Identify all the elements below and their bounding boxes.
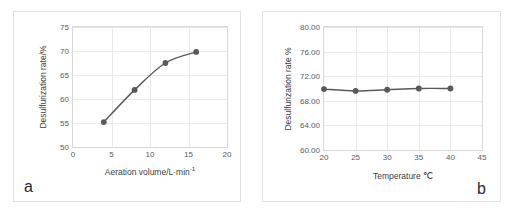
data-point-marker	[384, 87, 390, 93]
y-axis-tick-label: 75	[60, 23, 69, 32]
y-axis-tick-label: 80.00	[300, 23, 320, 32]
y-axis-title-a: Desulfurization rate/%	[38, 45, 48, 128]
series-line	[104, 52, 196, 122]
y-axis-tick-label: 68.00	[300, 96, 320, 105]
x-axis-tick-label: 5	[109, 150, 113, 159]
x-axis-tick-label: 20	[223, 150, 232, 159]
plot-area-b: Desulfurization rate % Temperature ℃ 60.…	[323, 26, 483, 151]
x-axis-title-b-text: Temperature ℃	[373, 171, 433, 181]
data-point-marker	[101, 119, 107, 125]
data-point-marker	[163, 60, 169, 66]
y-axis-tick-label: 55	[60, 119, 69, 128]
x-axis-title-b: Temperature ℃	[324, 169, 482, 181]
y-axis-tick-label: 76.00	[300, 47, 320, 56]
data-point-marker	[132, 87, 138, 93]
x-axis-tick-label: 0	[71, 150, 75, 159]
x-axis-tick-label: 20	[320, 153, 329, 162]
y-axis-tick-label: 65	[60, 71, 69, 80]
y-axis-tick-label: 70	[60, 47, 69, 56]
plot-area-a: Desulfurization rate/% Aeration volume/L…	[72, 26, 228, 148]
y-axis-tick-label: 64.00	[300, 121, 320, 130]
x-axis-tick-label: 10	[146, 150, 155, 159]
y-axis-tick-label: 72.00	[300, 72, 320, 81]
x-axis-title-a: Aeration volume/L·min-1	[73, 165, 227, 177]
data-series-b	[324, 27, 482, 150]
data-point-marker	[353, 88, 359, 94]
x-axis-tick-label: 25	[351, 153, 360, 162]
data-point-marker	[193, 49, 199, 55]
y-axis-title-b: Desulfurization rate %	[283, 47, 293, 130]
panel-label-a: a	[24, 179, 33, 195]
panel-label-b: b	[477, 181, 486, 197]
figure-container: a Desulfurization rate/% Aeration volume…	[0, 0, 515, 213]
x-axis-tick-label: 45	[478, 153, 487, 162]
x-axis-tick-label: 35	[414, 153, 423, 162]
x-axis-tick-label: 30	[383, 153, 392, 162]
y-axis-tick-label: 60.00	[300, 146, 320, 155]
chart-panel-a: a Desulfurization rate/% Aeration volume…	[13, 11, 241, 202]
x-axis-tick-label: 15	[184, 150, 193, 159]
y-axis-tick-label: 50	[60, 143, 69, 152]
y-axis-tick-label: 60	[60, 95, 69, 104]
data-point-marker	[448, 86, 454, 92]
x-axis-title-a-text: Aeration volume/L·min	[105, 167, 190, 177]
data-point-marker	[321, 86, 327, 92]
chart-panel-b: b Desulfurization rate % Temperature ℃ 6…	[262, 11, 501, 202]
x-axis-title-a-exponent: -1	[190, 165, 195, 172]
data-point-marker	[416, 86, 422, 92]
data-series-a	[73, 27, 227, 147]
x-axis-tick-label: 40	[446, 153, 455, 162]
